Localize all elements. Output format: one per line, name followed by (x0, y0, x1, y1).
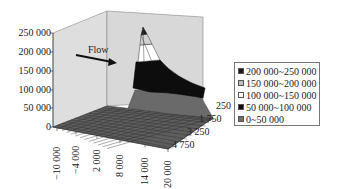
x-tick-label: 8 000 (115, 155, 125, 178)
x-tick-label: 20 000 (163, 161, 173, 189)
z-tick-label: 50 000 (24, 103, 52, 113)
depth-tick-label: 4 750 (172, 140, 195, 150)
z-tick-label: 250 000 (19, 28, 52, 38)
z-tick-label: 200 000 (19, 47, 52, 57)
x-tick-label: −4 000 (71, 146, 81, 174)
legend-item: 100 000~150 000 (238, 89, 317, 101)
x-tick-label: 2 000 (92, 150, 102, 173)
legend-label: 200 000~250 000 (246, 66, 316, 77)
legend-swatch (238, 80, 244, 86)
legend-label: 100 000~150 000 (246, 90, 316, 101)
legend-swatch (238, 92, 244, 98)
legend-item: 200 000~250 000 (238, 65, 317, 77)
legend-swatch (238, 104, 244, 110)
chart-legend: 200 000~250 000 150 000~200 000 100 000~… (234, 62, 320, 126)
x-tick-label: 14 000 (140, 158, 150, 186)
z-tick-label: 100 000 (19, 85, 52, 95)
legend-item: 150 000~200 000 (238, 77, 317, 89)
legend-item: 50 000~100 000 (238, 101, 317, 113)
legend-label: 0~50 000 (246, 114, 284, 125)
flow-annotation: Flow (88, 45, 109, 55)
x-tick-label: −10 000 (52, 147, 62, 180)
z-tick-label: 0 (46, 122, 51, 132)
legend-label: 50 000~100 000 (246, 102, 311, 113)
legend-swatch (238, 116, 244, 122)
depth-tick-label: 3 250 (187, 127, 210, 137)
legend-swatch (238, 68, 244, 74)
legend-item: 0~50 000 (238, 113, 317, 125)
z-tick-label: 150 000 (19, 66, 52, 76)
depth-tick-label: 250 (216, 101, 231, 111)
legend-label: 150 000~200 000 (246, 78, 316, 89)
depth-tick-label: 1 750 (199, 114, 222, 124)
